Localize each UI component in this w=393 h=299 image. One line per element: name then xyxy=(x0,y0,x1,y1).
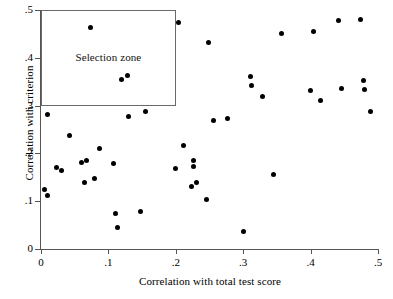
x-tick-label-4: .4 xyxy=(299,256,323,269)
data-point xyxy=(138,209,143,214)
data-point xyxy=(336,18,341,23)
data-point xyxy=(92,176,97,181)
data-point xyxy=(97,146,102,151)
data-point xyxy=(54,165,59,170)
data-point xyxy=(59,168,64,173)
data-point xyxy=(115,225,120,230)
data-point xyxy=(173,166,178,171)
data-point xyxy=(362,87,367,92)
data-point xyxy=(82,180,87,185)
data-point xyxy=(260,94,265,99)
data-point xyxy=(225,116,230,121)
data-point xyxy=(194,180,199,185)
x-tick-1 xyxy=(108,249,109,254)
data-point xyxy=(339,86,344,91)
data-point xyxy=(181,143,186,148)
x-tick-2 xyxy=(176,249,177,254)
data-point xyxy=(45,112,50,117)
scatter-plot-figure: 0.1.2.3.4.5 0.1.2.3.4.5 Selection zone C… xyxy=(0,0,393,299)
x-tick-label-5: .5 xyxy=(366,256,390,269)
data-point xyxy=(311,29,316,34)
data-point xyxy=(241,229,246,234)
data-point xyxy=(249,83,254,88)
data-point xyxy=(358,17,363,22)
x-tick-label-3: .3 xyxy=(231,256,255,269)
x-axis-title: Correlation with total test score xyxy=(41,275,379,287)
selection-zone-rectangle: Selection zone xyxy=(41,10,176,106)
data-point xyxy=(318,98,323,103)
data-point xyxy=(361,78,366,83)
x-tick-label-0: 0 xyxy=(29,256,53,269)
data-point xyxy=(67,133,72,138)
y-tick-label-5: .5 xyxy=(19,3,33,16)
x-tick-4 xyxy=(311,249,312,254)
data-point xyxy=(125,73,130,78)
y-axis-title: Correlation with criterion xyxy=(23,33,35,213)
x-tick-0 xyxy=(41,249,42,254)
data-point xyxy=(191,164,196,169)
data-point xyxy=(211,118,216,123)
plot-area: Selection zone xyxy=(41,10,378,249)
data-point xyxy=(111,161,116,166)
x-tick-label-1: .1 xyxy=(96,256,120,269)
y-tick-0 xyxy=(35,249,41,250)
data-point xyxy=(189,184,194,189)
data-point xyxy=(45,193,50,198)
data-point xyxy=(206,40,211,45)
data-point xyxy=(191,158,196,163)
data-point xyxy=(126,114,131,119)
data-point xyxy=(113,211,118,216)
data-point xyxy=(42,187,47,192)
data-point xyxy=(368,109,373,114)
data-point xyxy=(204,197,209,202)
data-point xyxy=(176,20,181,25)
data-point xyxy=(248,74,253,79)
x-axis-line xyxy=(41,249,379,250)
x-tick-5 xyxy=(378,249,379,254)
selection-zone-label: Selection zone xyxy=(42,50,175,65)
data-point xyxy=(143,109,148,114)
data-point xyxy=(308,88,313,93)
data-point xyxy=(279,31,284,36)
data-point xyxy=(271,172,276,177)
x-tick-3 xyxy=(243,249,244,254)
data-point xyxy=(84,158,89,163)
x-tick-label-2: .2 xyxy=(164,256,188,269)
y-tick-label-0: 0 xyxy=(19,242,33,255)
